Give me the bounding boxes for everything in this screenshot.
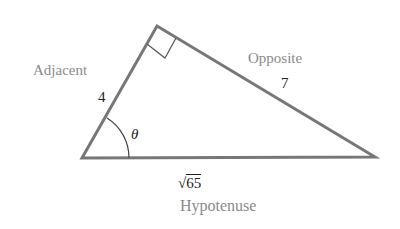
angle-theta-label: θ: [131, 127, 138, 142]
adjacent-label: Adjacent: [33, 63, 87, 78]
angle-theta-arc: [107, 118, 129, 158]
triangle-diagram: Adjacent 4 Opposite 7 θ √65 Hypotenuse: [0, 0, 400, 229]
triangle-figure: [0, 0, 400, 229]
hypotenuse-value: √65: [178, 175, 201, 192]
sqrt-symbol: √: [178, 175, 186, 191]
opposite-label: Opposite: [248, 51, 302, 66]
hypotenuse-radicand: 65: [186, 174, 201, 191]
triangle-outline: [82, 26, 375, 158]
adjacent-value: 4: [98, 90, 106, 105]
hypotenuse-label: Hypotenuse: [180, 198, 256, 214]
right-angle-marker: [147, 38, 176, 58]
opposite-value: 7: [281, 76, 289, 91]
